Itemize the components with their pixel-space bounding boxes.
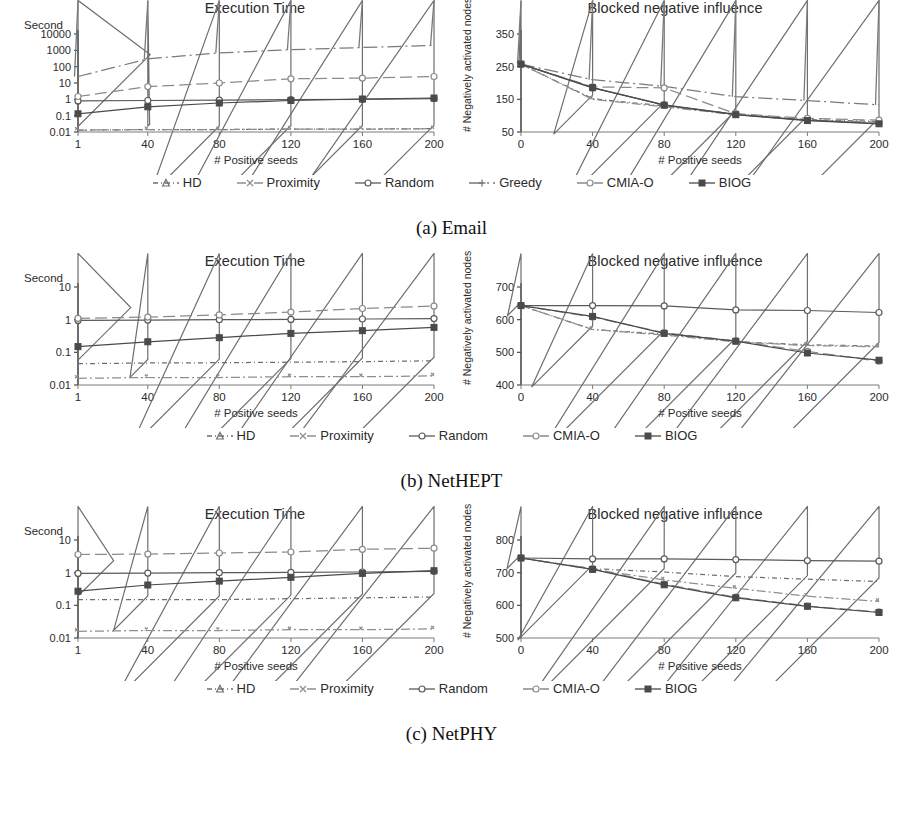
- svg-text:40: 40: [586, 644, 599, 656]
- svg-text:100: 100: [53, 61, 71, 73]
- legend-line-sample: [206, 682, 235, 696]
- svg-text:1: 1: [75, 391, 81, 403]
- legend-line-sample: [408, 429, 437, 443]
- legend-line-sample: [634, 429, 663, 443]
- panel-caption-b: (b) NetHEPT: [0, 470, 903, 492]
- legend-item-random[interactable]: Random: [354, 175, 434, 190]
- legend-item-cmia-o[interactable]: CMIA-O: [522, 428, 600, 443]
- svg-text:200: 200: [424, 391, 443, 403]
- legend-item-proximity[interactable]: Proximity: [289, 428, 373, 443]
- legend-item-hd[interactable]: HD: [206, 428, 256, 443]
- chart-b-right: Blocked negative influence# Negatively a…: [455, 253, 895, 428]
- x-axis-title-wrap: # Positive seeds: [455, 154, 895, 166]
- legend-item-proximity[interactable]: Proximity: [289, 681, 373, 696]
- panel-c-charts: Execution TimeSecond0.010.11101408012016…: [0, 506, 903, 681]
- panel-caption-a: (a) Email: [0, 217, 903, 239]
- legend-item-cmia-o[interactable]: CMIA-O: [576, 175, 654, 190]
- svg-text:350: 350: [496, 28, 514, 40]
- legend-label: CMIA-O: [553, 428, 600, 443]
- x-axis-title: # Positive seeds: [214, 154, 298, 166]
- svg-text:160: 160: [798, 138, 817, 150]
- panel-a: Execution TimeSecond0.010.11101001000100…: [0, 0, 903, 239]
- svg-text:200: 200: [424, 644, 443, 656]
- svg-text:50: 50: [502, 126, 514, 138]
- svg-text:80: 80: [213, 644, 226, 656]
- svg-text:40: 40: [141, 138, 154, 150]
- legend-label: HD: [237, 428, 256, 443]
- legend-item-greedy[interactable]: Greedy: [468, 175, 542, 190]
- legend-item-proximity[interactable]: Proximity: [236, 175, 320, 190]
- svg-text:1: 1: [75, 644, 81, 656]
- panel-c: Execution TimeSecond0.010.11101408012016…: [0, 506, 903, 745]
- legend-label: Proximity: [320, 681, 373, 696]
- legend-item-biog[interactable]: BIOG: [634, 681, 698, 696]
- svg-text:1000: 1000: [47, 44, 71, 56]
- svg-text:10: 10: [59, 534, 71, 546]
- svg-text:150: 150: [496, 93, 514, 105]
- legend-label: CMIA-O: [553, 681, 600, 696]
- panel-b: Execution TimeSecond0.010.11101408012016…: [0, 253, 903, 492]
- svg-text:0.01: 0.01: [50, 126, 71, 138]
- legend-item-random[interactable]: Random: [408, 428, 488, 443]
- legend-item-biog[interactable]: BIOG: [688, 175, 752, 190]
- panel-b-legend: HDProximityRandomCMIA-OBIOG: [0, 428, 903, 462]
- legend-line-sample: [522, 429, 551, 443]
- svg-text:800: 800: [496, 534, 514, 546]
- legend-label: CMIA-O: [607, 175, 654, 190]
- chart-c-left: Execution TimeSecond0.010.11101408012016…: [20, 506, 450, 681]
- svg-text:0: 0: [518, 391, 524, 403]
- legend-label: HD: [237, 681, 256, 696]
- legend-line-sample: [354, 176, 383, 190]
- svg-text:120: 120: [281, 138, 300, 150]
- legend-line-sample: [576, 176, 605, 190]
- legend-label: Proximity: [320, 428, 373, 443]
- svg-text:1: 1: [65, 93, 71, 105]
- legend-line-sample: [152, 176, 181, 190]
- legend-line-sample: [408, 682, 437, 696]
- legend-line-sample: [634, 682, 663, 696]
- x-axis-title-wrap: # Positive seeds: [20, 154, 450, 166]
- legend-label: Proximity: [267, 175, 320, 190]
- legend-item-random[interactable]: Random: [408, 681, 488, 696]
- plot-area: 40050060070004080120160200: [455, 253, 895, 428]
- legend-label: Random: [439, 681, 488, 696]
- svg-text:700: 700: [496, 281, 514, 293]
- svg-text:1: 1: [65, 567, 71, 579]
- x-axis-title-wrap: # Positive seeds: [20, 407, 450, 419]
- x-axis-title: # Positive seeds: [658, 660, 742, 672]
- svg-text:400: 400: [496, 379, 514, 391]
- svg-text:0.01: 0.01: [50, 379, 71, 391]
- panel-caption-c: (c) NetPHY: [0, 723, 903, 745]
- chart-b-left: Execution TimeSecond0.010.11101408012016…: [20, 253, 450, 428]
- svg-text:200: 200: [869, 391, 888, 403]
- panel-c-legend: HDProximityRandomCMIA-OBIOG: [0, 681, 903, 715]
- svg-text:500: 500: [496, 632, 514, 644]
- x-axis-title-wrap: # Positive seeds: [455, 407, 895, 419]
- legend-line-sample: [468, 176, 497, 190]
- svg-text:120: 120: [726, 391, 745, 403]
- svg-text:200: 200: [869, 138, 888, 150]
- svg-text:0: 0: [518, 644, 524, 656]
- svg-text:80: 80: [658, 138, 671, 150]
- legend-item-hd[interactable]: HD: [206, 681, 256, 696]
- svg-text:160: 160: [353, 138, 372, 150]
- panel-a-legend: HDProximityRandomGreedyCMIA-OBIOG: [0, 175, 903, 209]
- legend-label: Greedy: [499, 175, 542, 190]
- x-axis-title: # Positive seeds: [214, 407, 298, 419]
- legend-line-sample: [206, 429, 235, 443]
- svg-text:160: 160: [353, 391, 372, 403]
- svg-text:160: 160: [798, 391, 817, 403]
- svg-text:80: 80: [213, 391, 226, 403]
- svg-text:0.1: 0.1: [56, 346, 71, 358]
- legend-label: BIOG: [665, 428, 698, 443]
- legend-label: Random: [439, 428, 488, 443]
- svg-text:700: 700: [496, 567, 514, 579]
- legend-line-sample: [688, 176, 717, 190]
- panel-b-charts: Execution TimeSecond0.010.11101408012016…: [0, 253, 903, 428]
- legend-item-biog[interactable]: BIOG: [634, 428, 698, 443]
- legend-item-cmia-o[interactable]: CMIA-O: [522, 681, 600, 696]
- legend-item-hd[interactable]: HD: [152, 175, 202, 190]
- svg-text:500: 500: [496, 346, 514, 358]
- svg-text:10: 10: [59, 77, 71, 89]
- svg-text:0.1: 0.1: [56, 599, 71, 611]
